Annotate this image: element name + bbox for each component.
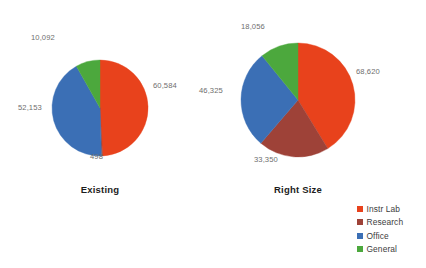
legend-swatch-instr-lab-icon [357, 206, 363, 212]
pie-right-size-label-instr-lab: 68,620 [356, 67, 380, 76]
pie-existing-label-research: 498 [90, 152, 103, 161]
pie-existing-label-general: 10,092 [31, 33, 55, 42]
pie-chart-right-size [241, 43, 355, 157]
pie-right-size-title: Right Size [241, 184, 355, 195]
legend-item[interactable]: Instr Lab [357, 202, 403, 216]
pie-existing-label-office: 52,153 [18, 103, 42, 112]
pie-slice-instr-lab[interactable] [100, 60, 148, 156]
pie-right-size-label-office: 46,325 [199, 86, 223, 95]
legend-label: General [367, 244, 398, 254]
chart-legend: Instr Lab Research Office General [357, 202, 403, 256]
legend-item[interactable]: Office [357, 229, 403, 243]
legend-swatch-general-icon [357, 246, 363, 252]
pie-existing-title: Existing [52, 184, 148, 195]
pie-right-size-svg [241, 43, 355, 157]
legend-label: Research [367, 217, 404, 227]
pie-existing-svg [52, 60, 148, 156]
pie-right-size-label-general: 18,056 [241, 22, 265, 31]
pie-right-size-label-research: 33,350 [254, 155, 278, 164]
legend-label: Office [367, 231, 389, 241]
legend-label: Instr Lab [367, 204, 401, 214]
legend-item[interactable]: Research [357, 216, 403, 230]
legend-item[interactable]: General [357, 243, 403, 257]
legend-swatch-office-icon [357, 233, 363, 239]
pie-existing-label-instr-lab: 60,584 [153, 81, 177, 90]
pie-chart-figure: 10,092 60,584 52,153 498 Existing 18,056… [0, 0, 426, 268]
pie-chart-existing [52, 60, 148, 156]
legend-swatch-research-icon [357, 219, 363, 225]
